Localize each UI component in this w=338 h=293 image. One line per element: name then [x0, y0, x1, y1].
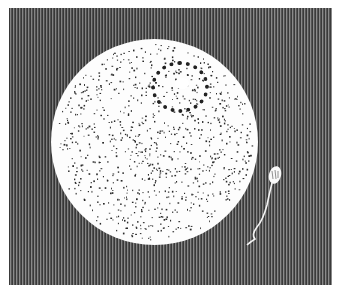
- egg-cell: [51, 39, 258, 245]
- cytoplasm-granules: [51, 39, 258, 245]
- nucleolus-icon: [175, 78, 189, 89]
- sperm-icon: [243, 165, 283, 247]
